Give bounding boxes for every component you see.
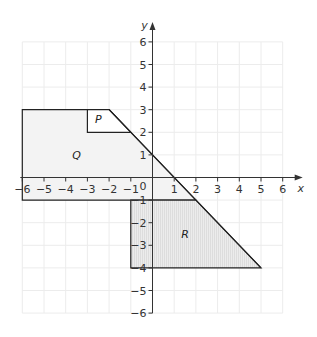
- origin-label: 0: [140, 180, 147, 193]
- x-tick-label: 1: [171, 183, 178, 196]
- x-tick-label: 5: [258, 183, 265, 196]
- x-tick-label: 4: [236, 183, 243, 196]
- y-tick-label: −5: [130, 285, 146, 298]
- shape-label-r: R: [181, 228, 189, 241]
- y-tick-label: 6: [140, 36, 147, 49]
- x-tick-label: −3: [79, 183, 95, 196]
- y-tick-label: 5: [140, 59, 147, 72]
- coordinate-diagram: −6−5−4−3−2−1123456654321−1−2−3−4−5−60xyQ…: [0, 0, 317, 337]
- x-tick-label: −5: [36, 183, 52, 196]
- y-axis-label: y: [140, 19, 148, 32]
- x-tick-label: −4: [58, 183, 74, 196]
- x-tick-label: −6: [14, 183, 30, 196]
- x-axis-label: x: [296, 182, 304, 195]
- y-tick-label: −6: [130, 307, 146, 320]
- shape-label-p: P: [95, 113, 102, 126]
- y-tick-label: −1: [130, 194, 146, 207]
- x-tick-label: 3: [214, 183, 221, 196]
- x-axis-arrow-icon: [295, 175, 303, 181]
- shape-p: [87, 110, 130, 133]
- shape-r: [131, 200, 261, 268]
- shape-label-q: Q: [72, 149, 81, 162]
- x-tick-label: −2: [101, 183, 117, 196]
- y-tick-label: 4: [140, 81, 147, 94]
- y-axis-arrow-icon: [150, 22, 156, 30]
- y-tick-label: 1: [140, 149, 147, 162]
- y-tick-label: −2: [130, 217, 146, 230]
- y-tick-label: −4: [130, 262, 146, 275]
- y-tick-label: 3: [140, 104, 147, 117]
- x-tick-label: 2: [192, 183, 199, 196]
- x-tick-label: 6: [279, 183, 286, 196]
- y-tick-label: −3: [130, 239, 146, 252]
- y-tick-label: 2: [140, 126, 147, 139]
